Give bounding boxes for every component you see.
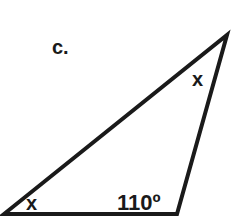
bottom-left-angle-label: x: [26, 192, 37, 214]
bottom-right-angle-label: 110º: [117, 190, 161, 215]
top-angle-label: x: [192, 68, 203, 90]
diagram-canvas: c. x x 110º: [0, 0, 242, 222]
triangle: [4, 35, 227, 214]
problem-label: c.: [52, 36, 69, 58]
triangle-diagram: c. x x 110º: [0, 0, 242, 222]
